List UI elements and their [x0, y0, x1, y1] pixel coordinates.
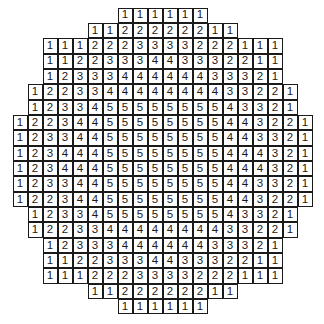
- grid-cell: 2: [253, 222, 268, 237]
- grid-cell: 3: [238, 84, 253, 99]
- grid-cell: 2: [268, 115, 283, 130]
- grid-cell: 4: [193, 69, 208, 84]
- grid-cell: 3: [253, 130, 268, 145]
- grid-cell: 5: [193, 161, 208, 176]
- grid-cell: 2: [58, 238, 73, 253]
- grid-cell: 5: [103, 100, 118, 115]
- grid-cell: 1: [298, 146, 313, 161]
- grid-cell: 3: [133, 268, 148, 283]
- grid-cell: 3: [178, 38, 193, 53]
- grid-cell: 2: [148, 23, 163, 38]
- grid-cell: 4: [163, 54, 178, 69]
- grid-row: 111111: [13, 300, 313, 315]
- grid-cell: 4: [223, 130, 238, 145]
- grid-cell: 3: [193, 54, 208, 69]
- grid-cell: 1: [283, 84, 298, 99]
- grid-cell: 1: [283, 222, 298, 237]
- grid-cell: 1: [13, 146, 28, 161]
- grid-cell: 3: [238, 207, 253, 222]
- grid-cell: 1: [298, 192, 313, 207]
- grid-cell: 2: [58, 222, 73, 237]
- grid-cell: 2: [103, 38, 118, 53]
- grid-cell: 1: [43, 268, 58, 283]
- grid-cell: 2: [253, 69, 268, 84]
- grid-cell: 3: [133, 54, 148, 69]
- grid-cell: 1: [43, 253, 58, 268]
- grid-cell: 1: [268, 69, 283, 84]
- grid-cell: 1: [43, 69, 58, 84]
- grid-cell: 2: [28, 161, 43, 176]
- grid-cell: 3: [178, 253, 193, 268]
- grid-row: 12334455555555443321: [13, 131, 313, 146]
- grid-cell: 1: [268, 238, 283, 253]
- grid-cell: 2: [208, 38, 223, 53]
- grid-cell: 1: [178, 299, 193, 314]
- grid-cell: 2: [58, 69, 73, 84]
- grid-cell: 4: [163, 69, 178, 84]
- grid-cell: 3: [253, 100, 268, 115]
- grid-cell: 5: [148, 100, 163, 115]
- grid-cell: 3: [253, 192, 268, 207]
- grid-cell: 1: [43, 54, 58, 69]
- grid-row: 122334444444433221: [13, 223, 313, 238]
- grid-cell: 2: [283, 192, 298, 207]
- grid-cell: 1: [253, 54, 268, 69]
- grid-cell: 2: [28, 192, 43, 207]
- grid-cell: 5: [208, 207, 223, 222]
- grid-row: 12234455555555443221: [13, 192, 313, 207]
- grid-cell: 1: [253, 38, 268, 53]
- grid-cell: 2: [223, 268, 238, 283]
- grid-cell: 2: [103, 268, 118, 283]
- grid-cell: 5: [118, 100, 133, 115]
- grid-cell: 3: [178, 268, 193, 283]
- grid-cell: 5: [148, 192, 163, 207]
- grid-cell: 1: [28, 222, 43, 237]
- grid-cell: 4: [58, 161, 73, 176]
- grid-cell: 5: [103, 130, 118, 145]
- grid-cell: 4: [238, 146, 253, 161]
- grid-cell: 4: [193, 222, 208, 237]
- grid-cell: 3: [133, 253, 148, 268]
- grid-cell: 1: [13, 161, 28, 176]
- grid-cell: 4: [88, 192, 103, 207]
- grid-cell: 2: [148, 284, 163, 299]
- grid-cell: 1: [268, 253, 283, 268]
- grid-cell: 2: [43, 115, 58, 130]
- grid-cell: 3: [103, 69, 118, 84]
- grid-cell: 4: [88, 115, 103, 130]
- grid-cell: 4: [208, 84, 223, 99]
- grid-cell: 2: [283, 130, 298, 145]
- grid-cell: 5: [133, 176, 148, 191]
- grid-cell: 5: [163, 100, 178, 115]
- grid-cell: 5: [193, 130, 208, 145]
- grid-cell: 5: [118, 130, 133, 145]
- grid-cell: 1: [58, 268, 73, 283]
- grid-cell: 4: [148, 253, 163, 268]
- grid-cell: 3: [268, 161, 283, 176]
- grid-cell: 2: [133, 23, 148, 38]
- grid-cell: 5: [148, 207, 163, 222]
- grid-cell: 2: [88, 54, 103, 69]
- grid-cell: 4: [103, 222, 118, 237]
- grid-cell: 3: [238, 238, 253, 253]
- grid-cell: 1: [13, 192, 28, 207]
- grid-cell: 5: [133, 192, 148, 207]
- grid-cell: 2: [193, 38, 208, 53]
- grid-cell: 4: [133, 222, 148, 237]
- grid-cell: 4: [103, 84, 118, 99]
- grid-cell: 5: [178, 176, 193, 191]
- grid-cell: 2: [178, 23, 193, 38]
- grid-cell: 3: [58, 207, 73, 222]
- grid-cell: 5: [148, 115, 163, 130]
- grid-cell: 5: [178, 192, 193, 207]
- grid-cell: 4: [118, 222, 133, 237]
- grid-cell: 1: [298, 161, 313, 176]
- grid-cell: 5: [103, 115, 118, 130]
- grid-cell: 3: [73, 222, 88, 237]
- grid-cell: 1: [73, 268, 88, 283]
- grid-cell: 2: [283, 115, 298, 130]
- grid-cell: 1: [103, 23, 118, 38]
- grid-cell: 4: [223, 146, 238, 161]
- grid-cell: 1: [193, 299, 208, 314]
- grid-cell: 2: [223, 38, 238, 53]
